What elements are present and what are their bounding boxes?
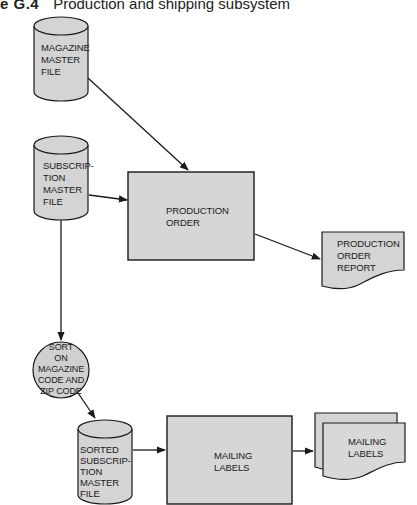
label-line: MAGAZINE: [41, 42, 90, 54]
edge-magazine-to-production: [88, 78, 188, 170]
sorted-subscription-master-file-label: SORTED SUBSCRIP- TION MASTER FILE: [80, 444, 131, 499]
label-line: ZIP CODE: [33, 386, 89, 397]
label-line: ORDER: [166, 217, 229, 229]
label-line: MASTER: [80, 477, 131, 488]
label-line: SUBSCRIP-: [80, 455, 131, 466]
label-line: SORT: [33, 342, 89, 353]
mailing-labels-output-label: MAILING LABELS: [348, 436, 386, 460]
production-order-report-label: PRODUCTION ORDER REPORT: [337, 238, 400, 274]
label-line: ON: [33, 353, 89, 364]
label-line: REPORT: [337, 262, 400, 274]
label-line: MAGAZINE: [33, 364, 89, 375]
label-line: SORTED: [80, 444, 131, 455]
label-line: MAILING: [348, 436, 386, 448]
label-line: SUBSCRIP-: [43, 160, 94, 172]
label-line: MASTER: [43, 184, 94, 196]
label-line: TION: [43, 172, 94, 184]
label-line: FILE: [80, 488, 131, 499]
mailing-labels-process-label: MAILING LABELS: [214, 450, 252, 474]
label-line: MASTER: [41, 54, 90, 66]
label-line: LABELS: [214, 462, 252, 474]
label-line: MAILING: [214, 450, 252, 462]
sort-process-label: SORT ON MAGAZINE CODE AND ZIP CODE: [33, 342, 89, 397]
edge-production-to-report: [255, 234, 320, 259]
production-order-label: PRODUCTION ORDER: [166, 205, 229, 229]
label-line: CODE AND: [33, 375, 89, 386]
label-line: TION: [80, 466, 131, 477]
label-line: PRODUCTION: [166, 205, 229, 217]
magazine-master-file-label: MAGAZINE MASTER FILE: [41, 42, 90, 78]
label-line: FILE: [43, 196, 94, 208]
edge-subscription-to-production: [89, 195, 127, 200]
label-line: PRODUCTION: [337, 238, 400, 250]
label-line: FILE: [41, 66, 90, 78]
label-line: ORDER: [337, 250, 400, 262]
subscription-master-file-label: SUBSCRIP- TION MASTER FILE: [43, 160, 94, 208]
label-line: LABELS: [348, 448, 386, 460]
